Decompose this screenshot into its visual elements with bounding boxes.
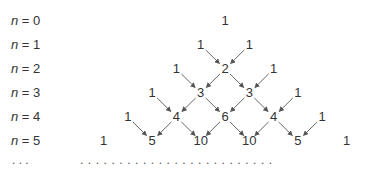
arrow-icon (279, 122, 293, 135)
arrow-icon (255, 122, 269, 135)
value-r5-c1: 5 (148, 134, 155, 148)
arrow-icon (279, 98, 293, 111)
arrow-icon (182, 98, 196, 111)
value-r1-c1: 1 (246, 38, 253, 52)
value-r4-c1: 4 (173, 110, 180, 124)
value-r1-c0: 1 (197, 38, 204, 52)
value-r2-c2: 1 (270, 62, 277, 76)
value-r4-c3: 4 (270, 110, 277, 124)
value-r5-c3: 10 (242, 134, 256, 148)
value-r5-c2: 10 (193, 134, 207, 148)
label-continuation-dots: . . . (12, 153, 29, 167)
arrow-icon (158, 122, 172, 135)
addition-arrows (0, 0, 376, 170)
value-r5-c0: 1 (100, 134, 107, 148)
arrow-icon (206, 122, 220, 135)
value-r3-c0: 1 (148, 86, 155, 100)
value-r2-c0: 1 (173, 62, 180, 76)
arrow-icon (231, 98, 245, 111)
arrow-icon (231, 50, 245, 63)
arrow-icon (255, 74, 269, 87)
value-r5-c5: 1 (343, 134, 350, 148)
value-r4-c0: 1 (124, 110, 131, 124)
arrow-icon (206, 98, 220, 111)
value-r4-c4: 1 (319, 110, 326, 124)
arrow-icon (157, 98, 171, 111)
arrow-icon (181, 74, 195, 87)
arrow-icon (304, 122, 318, 135)
arrow-icon (254, 98, 268, 111)
value-r3-c2: 3 (246, 86, 253, 100)
value-r2-c1: 2 (221, 62, 228, 76)
value-r3-c1: 3 (197, 86, 204, 100)
value-r4-c2: 6 (221, 110, 228, 124)
row-continuation-dots: . . . . . . . . . . . . . . . . . . . . … (80, 153, 273, 167)
value-r3-c3: 1 (294, 86, 301, 100)
arrow-icon (230, 74, 244, 87)
value-r5-c4: 5 (294, 134, 301, 148)
arrow-icon (206, 74, 220, 87)
value-r0-c0: 1 (221, 14, 228, 28)
arrow-icon (206, 50, 220, 63)
arrow-icon (133, 122, 147, 135)
